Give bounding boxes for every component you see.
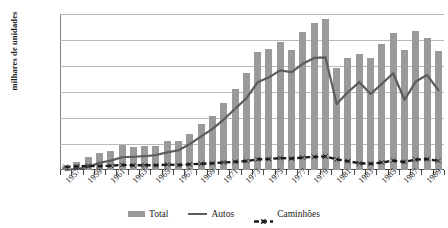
x-tick	[354, 170, 355, 175]
chart-container: milhares de unidades -200,400,600,800,10…	[0, 0, 448, 228]
legend-item-autos[interactable]: Autos	[188, 209, 234, 219]
legend-item-total[interactable]: Total	[128, 209, 168, 219]
x-tick	[263, 170, 264, 175]
legend-label-caminhoes: Caminhões	[277, 209, 320, 219]
x-tick	[196, 170, 197, 175]
x-tick	[150, 170, 151, 175]
x-tick	[308, 170, 309, 175]
line-series-layer	[60, 14, 444, 170]
x-tick	[286, 170, 287, 175]
legend-label-autos: Autos	[211, 209, 234, 219]
x-tick	[173, 170, 174, 175]
legend-item-caminhoes[interactable]: Caminhões	[254, 209, 320, 219]
plot-area: -200,400,600,800,1000,1200,	[60, 14, 444, 170]
legend-label-total: Total	[149, 209, 168, 219]
x-tick	[444, 170, 445, 175]
x-tick	[60, 170, 61, 175]
x-tick	[218, 170, 219, 175]
bar-swatch-icon	[128, 211, 145, 217]
dashed-line-swatch-icon	[254, 211, 273, 218]
chart-legend: Total Autos Caminhões	[0, 209, 448, 219]
x-tick	[376, 170, 377, 175]
y-axis-title: milhares de unidades	[9, 0, 19, 121]
x-axis-labels: 1957195919611963196519671969197119731975…	[60, 176, 444, 210]
x-tick	[105, 170, 106, 175]
autos-line	[66, 57, 439, 170]
line-swatch-icon	[188, 213, 207, 215]
x-tick	[399, 170, 400, 175]
x-tick	[241, 170, 242, 175]
x-tick	[83, 170, 84, 175]
x-tick	[331, 170, 332, 175]
x-tick	[421, 170, 422, 175]
x-tick	[128, 170, 129, 175]
